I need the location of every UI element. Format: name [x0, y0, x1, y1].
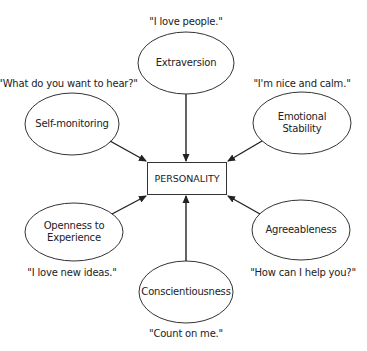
- arrow-agreeableness: [228, 196, 260, 214]
- self-monitoring-quote: "What do you want to hear?": [0, 78, 138, 89]
- openness-line2: Experience: [44, 232, 105, 244]
- openness-label: Openness to Experience: [44, 220, 105, 244]
- extraversion-quote: "I love people.": [149, 16, 222, 27]
- arrow-openness: [112, 196, 146, 214]
- conscientiousness-label: Conscientiousness: [141, 286, 230, 298]
- personality-label: PERSONALITY: [154, 173, 219, 184]
- openness-line1: Openness to: [44, 220, 105, 232]
- extraversion-label: Extraversion: [156, 57, 217, 69]
- emotional-stability-label: Emotional Stability: [278, 111, 326, 135]
- self-monitoring-label: Self-monitoring: [35, 118, 108, 130]
- agreeableness-label: Agreeableness: [265, 224, 336, 236]
- personality-box: PERSONALITY: [147, 162, 227, 195]
- arrow-emotional-stability: [228, 141, 262, 161]
- emotional-stability-quote: "I'm nice and calm.": [253, 78, 350, 89]
- openness-quote: "I love new ideas.": [27, 267, 116, 278]
- conscientiousness-quote: "Count on me.": [149, 328, 223, 339]
- arrow-self-monitoring: [110, 141, 146, 161]
- emotional-stability-line2: Stability: [278, 123, 326, 135]
- emotional-stability-line1: Emotional: [278, 111, 326, 123]
- agreeableness-quote: "How can I help you?": [250, 267, 356, 278]
